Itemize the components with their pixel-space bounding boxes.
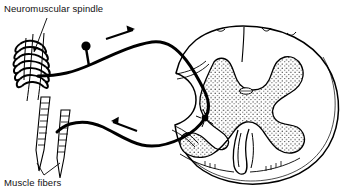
afferent-arrow-icon bbox=[106, 25, 135, 39]
neuromuscular-spindle bbox=[14, 18, 50, 101]
dorsal-root-ganglion-cell bbox=[81, 41, 90, 66]
afferent-axon bbox=[38, 42, 208, 118]
annulospiral-coil bbox=[18, 41, 46, 87]
muscle-fiber-1-outline bbox=[36, 97, 50, 171]
reflex-arc-illustration bbox=[0, 0, 356, 193]
reflex-arc-figure: Neuromuscular spindle Muscle fibers bbox=[0, 0, 356, 193]
dorsal-notch-far-right bbox=[287, 32, 296, 35]
intrafusal-fiber-c bbox=[24, 38, 26, 80]
muscle-fiber-2-outline bbox=[57, 110, 70, 178]
muscle-fibers bbox=[36, 97, 70, 178]
neuromuscular-spindle-label: Neuromuscular spindle bbox=[4, 3, 103, 14]
spinal-cord-cross-section bbox=[172, 26, 339, 184]
efferent-arrow-icon bbox=[111, 117, 137, 131]
muscle-fibers-label: Muscle fibers bbox=[4, 177, 61, 188]
